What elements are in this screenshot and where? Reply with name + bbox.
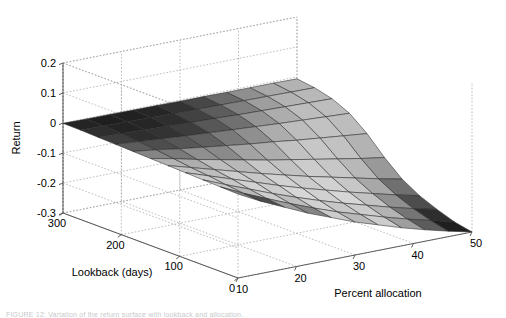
tick-label-y: 0 — [229, 282, 235, 294]
tick-label-y: 300 — [48, 217, 66, 229]
tick-label-z: -0.2 — [37, 177, 56, 189]
tick-z — [59, 153, 63, 155]
tick-z — [59, 93, 63, 95]
tick-label-x: 50 — [470, 237, 482, 249]
axis-label-y: Lookback (days) — [72, 266, 153, 278]
gridline-floor-x — [122, 202, 297, 267]
gridline-left-wall-z — [63, 183, 238, 248]
tick-label-y: 100 — [164, 260, 182, 272]
tick-label-x: 30 — [353, 260, 365, 272]
axis-label-x: Percent allocation — [334, 287, 421, 299]
surface-plot-svg: 0.20.10-0.1-0.2-0.330020010001020304050R… — [0, 0, 506, 318]
tick-label-z: 0.1 — [41, 87, 56, 99]
tick-label-x: 40 — [411, 249, 423, 261]
tick-label-z: 0.2 — [41, 57, 56, 69]
tick-y — [118, 235, 122, 238]
tick-label-y: 200 — [106, 239, 124, 251]
tick-label-x: 20 — [294, 272, 306, 284]
tick-z — [59, 63, 63, 65]
figure-3d-surface-plot: 0.20.10-0.1-0.2-0.330020010001020304050R… — [0, 0, 506, 318]
tick-label-x: 10 — [236, 283, 248, 295]
tick-label-z: 0 — [50, 117, 56, 129]
tick-z — [59, 123, 63, 125]
figure-caption: FIGURE 12: Variation of the return surfa… — [6, 311, 243, 318]
surface-mesh — [63, 79, 472, 232]
tick-y — [176, 256, 180, 259]
axis-label-z: Return — [10, 121, 22, 154]
tick-z — [59, 183, 63, 185]
tick-label-z: -0.1 — [37, 147, 56, 159]
